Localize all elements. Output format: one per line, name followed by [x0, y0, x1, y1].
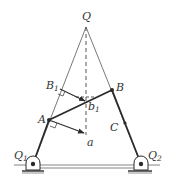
label-b1: B1 [45, 79, 59, 93]
right-angle-a [50, 123, 57, 128]
linkage-diagram: Q B1 b1 B A C a Q1 Q2 [0, 0, 172, 181]
label-b1-lower: b1 [88, 100, 100, 114]
right-angle-b1 [58, 91, 65, 96]
joint-a [47, 118, 51, 122]
point-c [123, 121, 126, 124]
label-a-lower: a [87, 136, 94, 149]
joint-b [110, 88, 114, 92]
label-b: B [115, 81, 124, 94]
label-q: Q [82, 10, 91, 23]
arrow-a-a [49, 120, 84, 133]
label-c: C [110, 121, 119, 134]
label-q1: Q1 [14, 149, 28, 163]
label-q2: Q2 [148, 149, 162, 163]
label-a-upper: A [37, 113, 46, 126]
